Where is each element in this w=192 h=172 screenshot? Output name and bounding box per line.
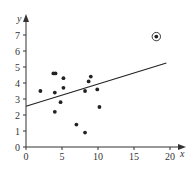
- y-tick-label: 7: [15, 30, 20, 41]
- data-point: [53, 110, 57, 114]
- data-point: [95, 88, 99, 92]
- data-point: [75, 123, 79, 127]
- y-axis-arrow-icon: [23, 14, 29, 22]
- y-axis-ticks: 01234567: [15, 30, 26, 153]
- y-tick-label: 5: [15, 62, 20, 73]
- data-point: [83, 89, 87, 93]
- data-point: [62, 76, 66, 80]
- y-tick-label: 1: [15, 126, 20, 137]
- x-axis-ticks: 05101520: [24, 147, 176, 162]
- y-axis-label: y: [16, 13, 22, 24]
- regression-line: [26, 63, 166, 106]
- x-axis-label: x: [179, 148, 185, 159]
- data-point: [154, 35, 158, 39]
- x-tick-label: 15: [129, 151, 139, 162]
- y-tick-label: 3: [15, 94, 20, 105]
- x-tick-label: 5: [60, 151, 65, 162]
- data-point: [83, 131, 87, 135]
- y-tick-label: 6: [15, 46, 20, 57]
- data-point: [62, 86, 66, 90]
- x-tick-label: 20: [165, 151, 175, 162]
- data-point: [98, 105, 102, 109]
- data-point: [39, 89, 43, 93]
- y-tick-label: 4: [15, 78, 20, 89]
- x-tick-label: 10: [93, 151, 103, 162]
- scatter-chart: 01234567 05101520 x y: [0, 0, 192, 172]
- y-tick-label: 2: [15, 110, 20, 121]
- data-point: [53, 91, 57, 95]
- y-tick-label: 0: [15, 142, 20, 153]
- x-tick-label: 0: [24, 151, 29, 162]
- data-point: [59, 100, 63, 104]
- data-point: [54, 72, 58, 76]
- data-point: [87, 80, 91, 84]
- data-point: [89, 75, 93, 79]
